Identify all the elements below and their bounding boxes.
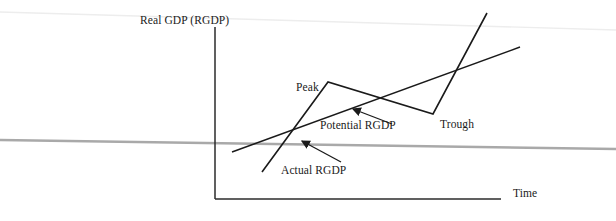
scan-artifact-line-top: [0, 12, 616, 30]
actual-rgdp-label: Actual RGDP: [281, 164, 346, 176]
potential-rgdp-label: Potential RGDP: [320, 119, 396, 131]
business-cycle-diagram: Real GDP (RGDP) Time Peak Trough Potenti…: [0, 0, 616, 221]
y-axis-label: Real GDP (RGDP): [140, 14, 229, 26]
peak-label: Peak: [296, 81, 319, 93]
potential-rgdp-line: [232, 47, 520, 152]
x-axis-label: Time: [513, 187, 537, 199]
trough-label: Trough: [440, 118, 474, 130]
